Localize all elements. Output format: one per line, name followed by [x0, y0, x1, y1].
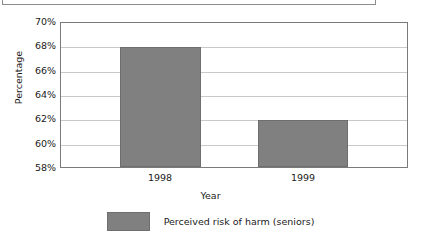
gridline-66	[61, 72, 407, 73]
legend-swatch-perceived-risk	[107, 212, 150, 231]
gridline-64	[61, 96, 407, 97]
x-tick-label-1999: 1999	[248, 172, 358, 183]
gridline-60	[61, 145, 407, 146]
plot-area	[60, 22, 408, 168]
y-axis-tick-labels: 70% 68% 66% 64% 62% 60% 58%	[0, 22, 56, 168]
y-tick-label: 62%	[4, 114, 56, 124]
bar-chart-figure: Percentage 70% 68% 66% 64% 62% 60% 58% 1…	[0, 0, 421, 243]
gridline-68	[61, 47, 407, 48]
y-tick-label: 58%	[4, 163, 56, 173]
y-tick-label: 66%	[4, 66, 56, 76]
chart-title-box	[2, 0, 376, 5]
y-tick-label: 68%	[4, 41, 56, 51]
x-axis-title: Year	[0, 190, 421, 201]
x-tick-label-1998: 1998	[105, 172, 215, 183]
legend-label-perceived-risk: Perceived risk of harm (seniors)	[164, 216, 315, 227]
y-tick-label: 70%	[4, 17, 56, 27]
y-tick-label: 60%	[4, 139, 56, 149]
legend: Perceived risk of harm (seniors)	[0, 212, 421, 231]
bar-1998	[120, 47, 201, 167]
y-tick-label: 64%	[4, 90, 56, 100]
bar-1999	[258, 120, 348, 167]
gridline-62	[61, 120, 407, 121]
